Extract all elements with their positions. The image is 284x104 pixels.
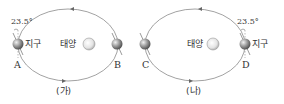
orbit-arrow-icon <box>198 7 202 11</box>
tilt-angle-label-a: 23.5° <box>11 18 33 26</box>
earth-label-d: 지구 <box>252 40 268 49</box>
position-label-d: D <box>242 60 250 70</box>
earth-c-icon <box>140 33 151 55</box>
sun-icon <box>83 38 95 50</box>
orbit-arrow-icon <box>70 7 74 11</box>
position-label-c: C <box>142 60 149 70</box>
position-label-b: B <box>114 60 121 70</box>
orbit-arrow-icon <box>62 79 66 83</box>
caption-ga: (가) <box>56 87 71 96</box>
sun-icon <box>207 38 219 50</box>
earth-d-icon <box>240 30 251 58</box>
position-label-a: A <box>14 60 21 70</box>
sun-label-ga: 태양 <box>60 40 76 49</box>
orbit-arrow-icon <box>189 79 193 83</box>
caption-na: (나) <box>186 87 201 96</box>
orbit-diagram <box>0 0 284 104</box>
earth-label-a: 지구 <box>25 40 41 49</box>
tilt-angle-label-d: 23.5° <box>237 18 259 26</box>
sun-label-na: 태양 <box>187 40 203 49</box>
earth-a-icon <box>13 30 24 58</box>
